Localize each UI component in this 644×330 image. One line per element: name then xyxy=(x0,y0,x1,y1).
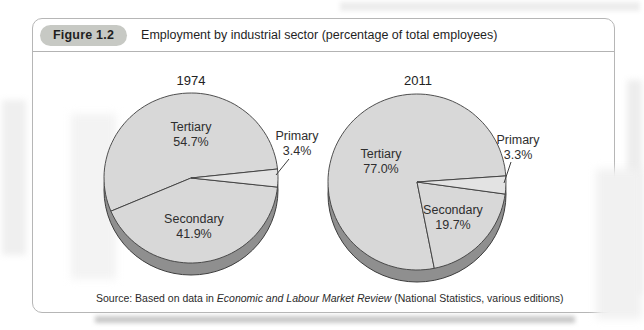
source-journal-title: Economic and Labour Market Review xyxy=(217,292,392,304)
figure-title: Employment by industrial sector (percent… xyxy=(141,28,497,42)
pie-year-title: 1974 xyxy=(177,73,206,88)
pie-chart-2011: Tertiary77.0%Secondary19.7%Primary3.3%20… xyxy=(287,61,567,293)
slice-value-tertiary: 77.0% xyxy=(363,162,398,176)
slice-label-tertiary: Tertiary xyxy=(361,147,403,161)
scan-artifact xyxy=(95,316,575,323)
figure-number-badge: Figure 1.2 xyxy=(40,25,127,46)
slice-value-primary: 3.3% xyxy=(504,148,533,162)
slice-value-secondary: 41.9% xyxy=(176,227,211,241)
slice-label-secondary: Secondary xyxy=(423,203,484,217)
slice-value-secondary: 19.7% xyxy=(435,218,470,232)
figure-box: Figure 1.2 Employment by industrial sect… xyxy=(32,18,615,313)
scanned-page: Figure 1.2 Employment by industrial sect… xyxy=(0,0,644,330)
source-text: Source: Based on data in xyxy=(96,292,217,304)
source-text: (National Statistics, various editions) xyxy=(391,292,563,304)
scan-artifact xyxy=(2,100,26,255)
source-note: Source: Based on data in Economic and La… xyxy=(96,292,564,304)
scan-artifact xyxy=(596,169,642,319)
slice-label-primary: Primary xyxy=(496,133,540,147)
scan-artifact xyxy=(340,2,640,11)
scan-artifact xyxy=(627,80,642,295)
slice-label-secondary: Secondary xyxy=(164,212,225,226)
slice-label-tertiary: Tertiary xyxy=(171,120,213,134)
figure-header: Figure 1.2 Employment by industrial sect… xyxy=(33,19,614,52)
slice-value-tertiary: 54.7% xyxy=(173,135,208,149)
pie-year-title: 2011 xyxy=(404,73,432,88)
